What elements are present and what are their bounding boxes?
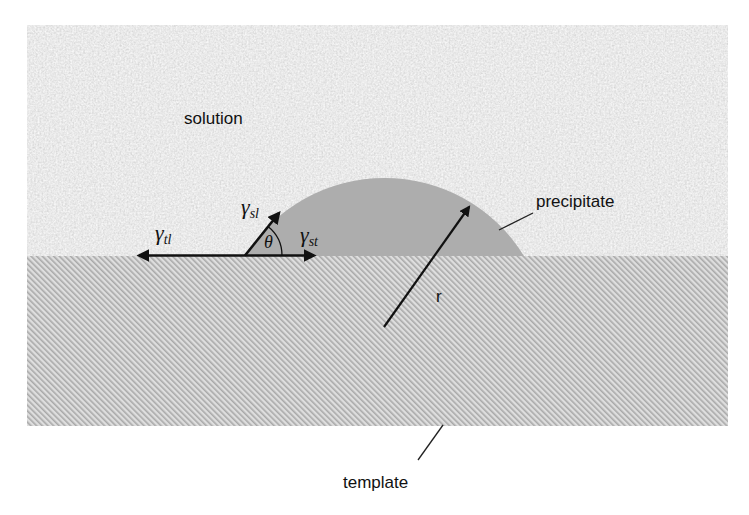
radius-label: r <box>436 287 442 306</box>
template-leader-line <box>418 425 443 460</box>
precipitate-label: precipitate <box>536 192 614 211</box>
template-label: template <box>343 473 408 492</box>
nucleation-diagram: solution precipitate template r γtl γsl … <box>0 0 749 515</box>
template-region <box>27 256 728 426</box>
gamma-sl-subscript: sl <box>250 206 259 221</box>
gamma-st-subscript: st <box>309 234 319 249</box>
theta-label: θ <box>264 232 273 252</box>
solution-label: solution <box>184 109 243 128</box>
gamma-tl-subscript: tl <box>164 232 172 247</box>
